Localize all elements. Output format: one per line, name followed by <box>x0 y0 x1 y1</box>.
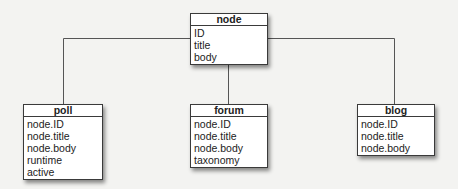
entity-poll: poll node.ID node.title node.body runtim… <box>23 104 103 180</box>
entity-field: body <box>194 51 265 63</box>
entity-blog: blog node.ID node.title node.body <box>357 104 435 156</box>
entity-field: runtime <box>27 154 100 166</box>
entity-field: taxonomy <box>194 154 265 166</box>
entity-field: node.body <box>27 142 100 154</box>
entity-node: node ID title body <box>190 13 268 65</box>
entity-field: node.title <box>361 130 432 142</box>
entity-field: node.title <box>194 130 265 142</box>
entity-title: poll <box>24 105 102 117</box>
entity-field: title <box>194 39 265 51</box>
entity-field: node.ID <box>194 118 265 130</box>
entity-title: node <box>191 14 267 26</box>
entity-field: ID <box>194 27 265 39</box>
entity-field: node.body <box>194 142 265 154</box>
entity-forum: forum node.ID node.title node.body taxon… <box>190 104 268 168</box>
entity-field: node.body <box>361 142 432 154</box>
entity-field: node.title <box>27 130 100 142</box>
entity-field: active <box>27 166 100 178</box>
entity-title: forum <box>191 105 267 117</box>
entity-title: blog <box>358 105 434 117</box>
entity-field: node.ID <box>27 118 100 130</box>
entity-field: node.ID <box>361 118 432 130</box>
